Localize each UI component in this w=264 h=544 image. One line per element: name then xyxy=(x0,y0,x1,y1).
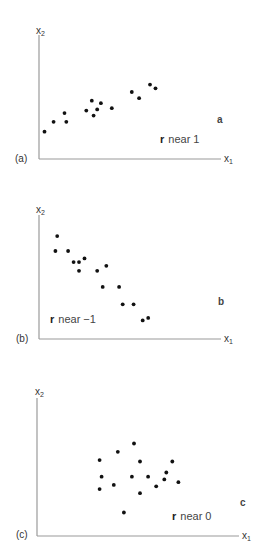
data-point-b-12 xyxy=(121,302,125,306)
data-point-c-10 xyxy=(162,478,166,482)
data-point-b-14 xyxy=(141,319,145,323)
scatter-figure: x2 x1 (a) a rnear 1 x2 x1 (b) b rnear −1… xyxy=(0,0,264,544)
x-axis-label-a: x1 xyxy=(224,153,233,165)
annotation-b: rnear −1 xyxy=(50,313,96,325)
panel-label-c: (c) xyxy=(16,529,28,540)
data-point-a-10 xyxy=(110,106,114,110)
data-point-a-2 xyxy=(52,120,56,124)
data-point-b-8 xyxy=(95,269,99,273)
data-point-a-12 xyxy=(137,96,141,100)
x-axis-label-c: x1 xyxy=(242,530,251,542)
points-a xyxy=(43,83,158,134)
data-point-b-11 xyxy=(117,285,121,289)
data-point-c-11 xyxy=(98,487,102,491)
panel-label-a: (a) xyxy=(15,153,27,164)
data-point-b-5 xyxy=(77,260,81,264)
data-point-c-5 xyxy=(170,460,174,464)
data-point-c-13 xyxy=(138,491,142,495)
points-c xyxy=(98,442,181,515)
data-point-b-9 xyxy=(104,264,108,268)
data-point-b-4 xyxy=(72,260,76,264)
data-point-c-7 xyxy=(130,475,134,479)
y-axis-label-c: x2 xyxy=(35,386,44,398)
data-point-c-15 xyxy=(177,480,181,484)
data-point-b-15 xyxy=(146,316,150,320)
data-point-b-1 xyxy=(55,234,59,238)
annotation-c: rnear 0 xyxy=(172,510,211,522)
y-axis-label-a: x2 xyxy=(36,25,45,37)
data-point-c-8 xyxy=(146,475,150,479)
data-point-a-1 xyxy=(43,130,47,134)
data-point-c-1 xyxy=(98,458,102,462)
points-b xyxy=(54,234,151,322)
panel-b: x2 x1 (b) b rnear −1 xyxy=(16,204,233,345)
data-point-a-13 xyxy=(148,83,152,87)
data-point-a-5 xyxy=(84,109,88,113)
annotation-a: rnear 1 xyxy=(160,133,199,145)
y-axis-label-b: x2 xyxy=(36,204,45,216)
x-axis-label-b: x1 xyxy=(224,333,233,345)
data-point-a-7 xyxy=(92,114,96,118)
data-point-c-16 xyxy=(122,511,126,515)
panel-label-b: (b) xyxy=(16,333,28,344)
corner-letter-b: b xyxy=(218,296,224,307)
data-point-a-3 xyxy=(63,111,67,115)
data-point-b-2 xyxy=(54,249,58,253)
data-point-a-8 xyxy=(95,108,99,112)
data-point-a-6 xyxy=(90,99,94,103)
data-point-b-13 xyxy=(132,302,136,306)
data-point-a-11 xyxy=(130,90,134,94)
data-point-b-3 xyxy=(66,249,70,253)
data-point-c-3 xyxy=(132,442,136,446)
data-point-a-4 xyxy=(64,120,68,124)
data-point-b-6 xyxy=(83,257,87,261)
data-point-c-4 xyxy=(138,460,142,464)
panel-a: x2 x1 (a) a rnear 1 xyxy=(15,25,233,165)
data-point-c-14 xyxy=(154,484,158,488)
data-point-a-9 xyxy=(99,101,103,105)
data-point-b-10 xyxy=(101,285,105,289)
corner-letter-a: a xyxy=(217,114,223,125)
data-point-c-9 xyxy=(164,471,168,475)
data-point-c-6 xyxy=(100,475,104,479)
data-point-a-14 xyxy=(154,86,158,90)
data-point-b-7 xyxy=(77,269,81,273)
data-point-c-2 xyxy=(116,450,120,454)
corner-letter-c: c xyxy=(240,497,246,508)
data-point-c-12 xyxy=(112,483,116,487)
panel-c: x2 x1 (c) c rnear 0 xyxy=(16,386,251,542)
